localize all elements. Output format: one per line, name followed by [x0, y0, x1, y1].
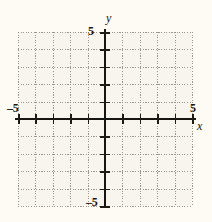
y-axis-tick — [100, 206, 110, 208]
y-axis-tick — [100, 84, 110, 86]
y-axis-name-label: y — [106, 12, 111, 24]
x-axis-tick — [53, 114, 55, 124]
y-axis-line — [104, 29, 106, 208]
y-axis-tick — [100, 136, 110, 138]
x-axis-tick — [140, 114, 142, 124]
x-axis-tick — [35, 114, 37, 124]
y-axis-tick — [100, 49, 110, 51]
x-axis-tick — [70, 114, 72, 124]
y-axis-max-label: 5 — [88, 25, 94, 37]
y-axis-tick — [100, 171, 110, 173]
y-axis-min-label: –5 — [86, 196, 97, 208]
x-axis-tick — [175, 114, 177, 124]
y-axis-tick — [100, 67, 110, 69]
x-axis-tick — [18, 114, 20, 124]
x-axis-name-label: x — [197, 120, 202, 132]
y-axis-tick — [100, 189, 110, 191]
x-axis-tick — [157, 114, 159, 124]
x-axis-max-label: 5 — [190, 102, 196, 114]
x-axis-tick — [192, 114, 194, 124]
coordinate-grid-figure: 5 –5 –5 5 y x — [0, 0, 212, 222]
y-axis-tick — [100, 102, 110, 104]
x-axis-tick — [122, 114, 124, 124]
x-axis-min-label: –5 — [7, 102, 18, 114]
y-axis-tick — [100, 32, 110, 34]
x-axis-tick — [88, 114, 90, 124]
y-axis-tick — [100, 154, 110, 156]
